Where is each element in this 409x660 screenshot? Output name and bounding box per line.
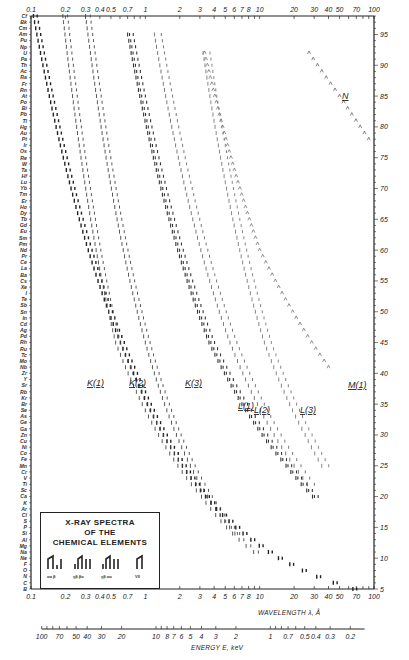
svg-text:Nd: Nd <box>20 247 28 253</box>
svg-text:Se: Se <box>21 407 27 413</box>
svg-text:Nb: Nb <box>20 364 28 370</box>
svg-text:0.4: 0.4 <box>95 593 105 600</box>
svg-text:Am: Am <box>18 31 28 37</box>
svg-text:4: 4 <box>212 593 216 600</box>
svg-text:0.5: 0.5 <box>106 6 116 13</box>
svg-text:Re: Re <box>20 155 27 161</box>
svg-text:50: 50 <box>336 6 344 13</box>
series-label-k2: K(2) <box>129 378 146 388</box>
svg-text:60: 60 <box>380 247 388 254</box>
svg-text:Ce: Ce <box>20 259 27 265</box>
svg-text:Mn: Mn <box>20 463 28 469</box>
svg-text:80: 80 <box>380 123 388 130</box>
svg-text:4: 4 <box>200 633 204 640</box>
svg-text:Cu: Cu <box>20 438 28 444</box>
svg-text:Br: Br <box>21 401 28 407</box>
svg-text:Pr: Pr <box>22 253 28 259</box>
svg-text:Tc: Tc <box>21 352 27 358</box>
svg-text:Na: Na <box>20 549 27 555</box>
svg-text:Np: Np <box>20 44 27 50</box>
svg-text:Os: Os <box>20 148 27 154</box>
svg-text:N: N <box>23 573 27 579</box>
svg-text:O: O <box>23 567 27 573</box>
svg-text:1: 1 <box>268 633 272 640</box>
svg-text:10: 10 <box>256 593 264 600</box>
svg-text:Ge: Ge <box>20 419 27 425</box>
svg-text:Al: Al <box>21 537 28 543</box>
svg-text:Rb: Rb <box>20 389 28 395</box>
svg-text:At: At <box>21 93 28 99</box>
svg-text:K: K <box>23 500 28 506</box>
svg-text:0.3: 0.3 <box>81 6 91 13</box>
svg-text:5: 5 <box>223 593 227 600</box>
svg-text:Sr: Sr <box>22 382 28 388</box>
svg-text:30: 30 <box>380 431 388 438</box>
svg-text:Pa: Pa <box>21 56 27 62</box>
svg-text:1: 1 <box>143 6 147 13</box>
legend-line-glyphs: αα β γβ βα γβ αα VII <box>45 553 155 583</box>
svg-text:P: P <box>24 524 28 530</box>
svg-text:10: 10 <box>152 633 160 640</box>
svg-text:75: 75 <box>380 154 388 161</box>
svg-text:25: 25 <box>379 462 388 469</box>
svg-text:Sc: Sc <box>21 487 27 493</box>
energy-axis: 100705040302010876543210.70.50.40.30.2 <box>36 626 365 640</box>
svg-text:Eu: Eu <box>20 228 27 234</box>
svg-text:Tl: Tl <box>22 118 27 124</box>
svg-text:Ac: Ac <box>19 68 27 74</box>
svg-text:0.7: 0.7 <box>123 6 134 13</box>
svg-text:Hf: Hf <box>22 173 29 179</box>
wavelength-axis-title: WAVELENGTH λ, Å <box>258 608 320 616</box>
svg-text:0.4: 0.4 <box>311 633 321 640</box>
svg-text:Po: Po <box>20 99 27 105</box>
svg-text:0.4: 0.4 <box>95 6 105 13</box>
svg-text:65: 65 <box>380 216 388 223</box>
series-label-l3: L(3) <box>300 405 316 415</box>
svg-text:La: La <box>21 265 27 271</box>
svg-text:10: 10 <box>256 6 264 13</box>
svg-text:Tm: Tm <box>19 191 27 197</box>
svg-text:Y: Y <box>24 376 28 382</box>
svg-text:50: 50 <box>72 633 80 640</box>
svg-text:Xe: Xe <box>20 284 27 290</box>
svg-text:0.7: 0.7 <box>123 593 134 600</box>
svg-text:Er: Er <box>22 198 28 204</box>
svg-text:U: U <box>23 50 27 56</box>
svg-text:0.1: 0.1 <box>26 6 36 13</box>
svg-text:Si: Si <box>22 530 27 536</box>
plot-frame <box>31 16 374 589</box>
svg-text:F: F <box>24 561 28 567</box>
legend-title-line-2: OF THE <box>41 528 159 537</box>
svg-text:70: 70 <box>352 6 360 13</box>
svg-text:20: 20 <box>289 593 298 600</box>
svg-text:5: 5 <box>223 6 227 13</box>
svg-text:95: 95 <box>380 31 388 38</box>
svg-text:Pu: Pu <box>20 37 27 43</box>
svg-text:0.2: 0.2 <box>61 6 71 13</box>
svg-text:V: V <box>24 475 28 481</box>
svg-text:Bk: Bk <box>20 19 28 25</box>
svg-text:0.7: 0.7 <box>283 633 294 640</box>
svg-text:Mo: Mo <box>20 358 28 364</box>
svg-text:Ra: Ra <box>20 74 27 80</box>
legend-title-line-3: CHEMICAL ELEMENTS <box>41 538 159 547</box>
svg-text:Ta: Ta <box>21 167 27 173</box>
svg-text:C: C <box>23 580 27 586</box>
svg-text:40: 40 <box>83 633 91 640</box>
series-label-l1: L(1) <box>238 401 254 411</box>
svg-text:Ba: Ba <box>20 272 27 278</box>
svg-text:40: 40 <box>325 593 333 600</box>
svg-text:Zr: Zr <box>21 370 28 376</box>
svg-text:70: 70 <box>352 593 360 600</box>
svg-text:Kr: Kr <box>21 395 28 401</box>
svg-text:0.2: 0.2 <box>61 593 71 600</box>
svg-text:Ti: Ti <box>22 481 27 487</box>
svg-text:0.3: 0.3 <box>325 633 335 640</box>
svg-text:7: 7 <box>172 633 177 640</box>
atomic-number-axis: 5101520253035404550556065707580859095 <box>374 16 388 593</box>
svg-text:5: 5 <box>188 633 192 640</box>
svg-text:αα β: αα β <box>47 574 56 579</box>
svg-text:Mg: Mg <box>20 543 28 549</box>
svg-text:20: 20 <box>289 6 298 13</box>
svg-text:8: 8 <box>165 633 169 640</box>
